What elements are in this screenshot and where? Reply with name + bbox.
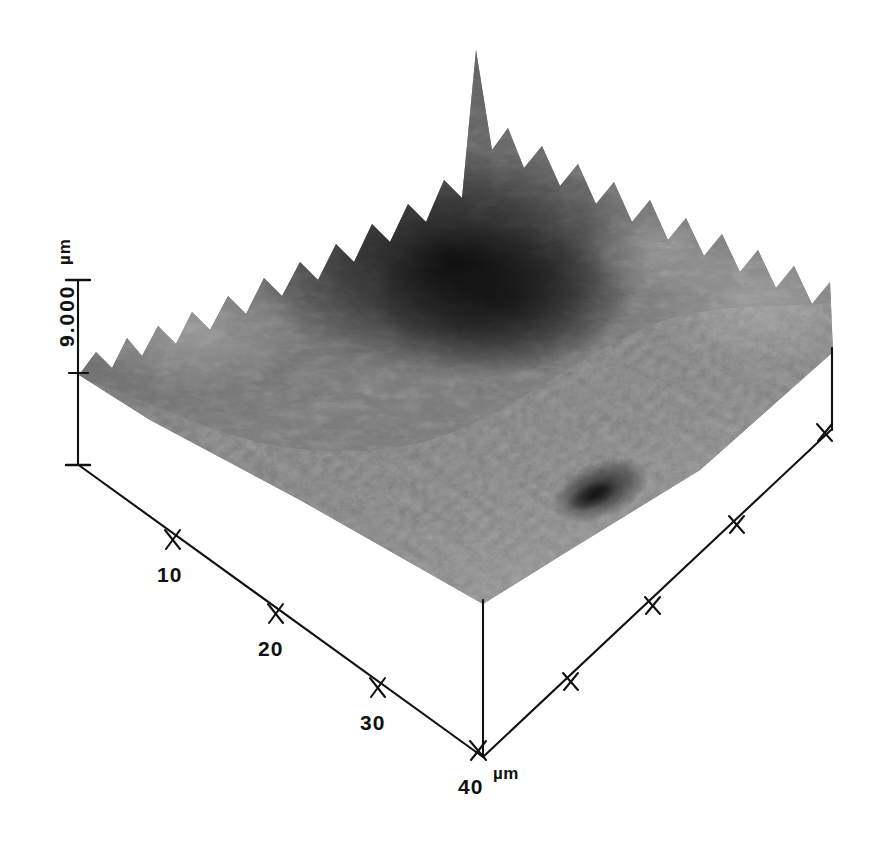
figure-canvas: 9.000 µm 10 20 30 40 µm — [0, 0, 875, 845]
x-axis-unit-label: µm — [493, 764, 519, 784]
surface-plot-svg — [0, 0, 875, 845]
y-axis-tick-2 — [645, 597, 660, 614]
surface-mesh — [31, 30, 871, 640]
x-axis-tick-label-40: 40 — [458, 775, 483, 799]
ridge-highlight-back — [580, 202, 740, 298]
z-axis-unit-label: µm — [55, 238, 75, 265]
x-axis-tick-label-10: 10 — [157, 563, 182, 587]
z-axis-value-label: 9.000 — [55, 284, 79, 347]
x-axis-tick-label-20: 20 — [258, 637, 283, 661]
figure-caption — [0, 828, 875, 845]
ridge-highlight-left — [70, 266, 310, 394]
x-axis-tick-label-30: 30 — [360, 711, 385, 735]
